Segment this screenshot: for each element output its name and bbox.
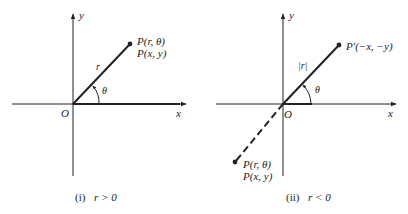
figure-r-negative: y x O |r| θ P′(−x, −y) P(r, θ) P(x, y) (… (216, 9, 396, 204)
figure-r-positive: y x O r θ P(r, θ) P(x, y) (i) r > 0 (12, 9, 186, 204)
polar-coordinates-figure: y x O r θ P(r, θ) P(x, y) (i) r > 0 y x … (0, 0, 408, 214)
negative-r-ray-dashed (235, 104, 283, 162)
x-axis-label: x (387, 107, 393, 119)
theta-label: θ (315, 84, 320, 95)
point-cartesian-label: P(x, y) (136, 47, 167, 60)
point-cartesian-label: P(x, y) (242, 170, 273, 183)
caption-number: (ii) (286, 191, 300, 204)
x-axis-label: x (175, 107, 181, 119)
abs-r-label: |r| (298, 60, 307, 71)
caption-number: (i) (75, 191, 86, 204)
origin-label: O (61, 107, 69, 119)
angle-arc (303, 85, 311, 104)
r-label: r (96, 61, 100, 72)
angle-arc (93, 86, 99, 104)
point-p (128, 42, 133, 47)
point-prime-label: P′(−x, −y) (345, 40, 393, 53)
y-axis-label: y (78, 9, 84, 21)
theta-label: θ (102, 85, 107, 96)
point-p (233, 160, 238, 165)
y-axis-label: y (288, 9, 294, 21)
point-p-prime (337, 43, 342, 48)
caption-condition: r > 0 (94, 191, 117, 203)
theta-ray (283, 45, 339, 104)
origin-label: O (284, 108, 292, 120)
caption-condition: r < 0 (308, 191, 331, 203)
